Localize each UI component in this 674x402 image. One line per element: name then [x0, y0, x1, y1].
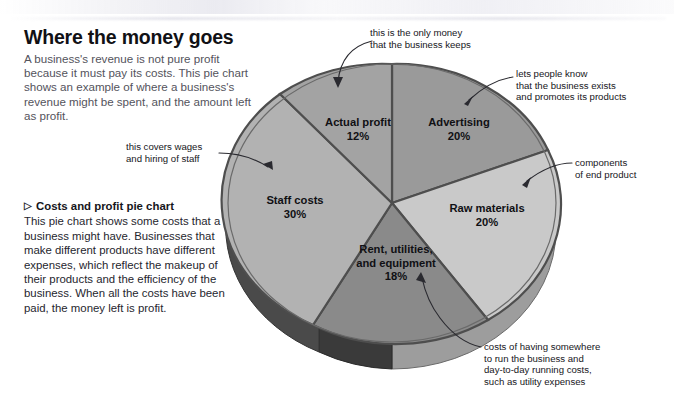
slice-label-raw-materials-text: Raw materials — [449, 202, 524, 214]
annotation-profit-note: this is the only money that the business… — [370, 27, 520, 50]
caption-title: Costs and profit pie chart — [36, 200, 174, 212]
leader-raw-materials — [527, 163, 572, 181]
caption-body: This pie chart shows some costs that a b… — [24, 214, 232, 315]
slice-label-advertising-value: 20% — [404, 130, 514, 143]
slice-label-staff-costs-value: 30% — [245, 208, 345, 221]
intro-paragraph: A business's revenue is not pure profit … — [24, 52, 252, 123]
leader-profit — [338, 41, 372, 82]
slice-label-rent-text: Rent, utilities, and equipment — [356, 243, 436, 268]
slice-label-actual-profit-text: Actual profit — [325, 116, 391, 128]
scan-artifact-rule — [8, 17, 666, 20]
caption-block: ▷Costs and profit pie chart This pie cha… — [24, 199, 232, 315]
arrowhead-profit — [333, 77, 343, 88]
leader-advertising — [469, 77, 513, 100]
triangle-marker-icon: ▷ — [24, 199, 32, 213]
arrowhead-staff — [263, 161, 273, 170]
caption-title-row: ▷Costs and profit pie chart — [24, 199, 232, 214]
annotation-rent-note: costs of having somewhere to run the bus… — [484, 341, 674, 387]
slice-label-rent-value: 18% — [330, 270, 462, 283]
annotation-raw-materials-note: components of end product — [575, 157, 673, 180]
slice-label-advertising-text: Advertising — [428, 116, 490, 128]
slice-label-advertising: Advertising 20% — [404, 103, 514, 157]
slice-label-actual-profit: Actual profit 12% — [305, 103, 411, 157]
slice-label-staff-costs: Staff costs 30% — [245, 181, 345, 235]
slice-label-actual-profit-value: 12% — [305, 130, 411, 143]
slice-label-rent-utilities-equipment: Rent, utilities, and equipment 18% — [330, 230, 462, 297]
page-title: Where the money goes — [24, 27, 274, 48]
annotation-advertising-note: lets people know that the business exist… — [516, 68, 672, 103]
slice-label-raw-materials-value: 20% — [428, 216, 546, 229]
slice-label-staff-costs-text: Staff costs — [266, 194, 323, 206]
scan-artifact-strip — [0, 0, 674, 14]
arrowhead-raw-materials — [522, 177, 531, 188]
annotation-staff-note: this covers wages and hiring of staff — [126, 141, 244, 164]
infographic-page: Where the money goes A business's revenu… — [0, 0, 674, 402]
side-rent — [319, 325, 392, 369]
